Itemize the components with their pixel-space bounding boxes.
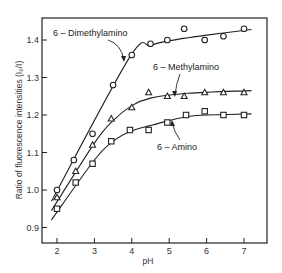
square-marker-icon bbox=[241, 112, 246, 117]
fluorescence-ratio-chart: 234567 0.91.01.11.21.31.4 pH Ratio of fl… bbox=[0, 0, 282, 273]
square-marker-icon bbox=[109, 139, 114, 144]
circle-marker-icon bbox=[181, 26, 187, 32]
y-tick-label: 1.4 bbox=[26, 35, 39, 45]
y-tick-label: 1.2 bbox=[26, 110, 39, 120]
triangle-marker-icon bbox=[108, 116, 114, 121]
arrowhead-amino-icon bbox=[170, 120, 175, 126]
circle-marker-icon bbox=[165, 37, 171, 43]
circle-marker-icon bbox=[241, 26, 247, 32]
triangle-marker-icon bbox=[202, 89, 208, 94]
x-tick-label: 5 bbox=[167, 246, 172, 256]
square-marker-icon bbox=[73, 180, 78, 185]
label-methylamino: 6 – Methylamino bbox=[153, 62, 219, 72]
series-6-amino bbox=[51, 109, 251, 220]
triangle-marker-icon bbox=[146, 89, 152, 94]
square-marker-icon bbox=[90, 161, 95, 166]
circle-marker-icon bbox=[221, 33, 227, 39]
y-axis: 0.91.01.11.21.31.4 bbox=[26, 35, 47, 233]
square-marker-icon bbox=[165, 120, 170, 125]
y-axis-label: Ratio of fluorescence intensities (I₀/I) bbox=[14, 61, 24, 200]
x-tick-label: 2 bbox=[54, 246, 59, 256]
circle-marker-icon bbox=[90, 131, 96, 137]
x-tick-label: 4 bbox=[129, 246, 134, 256]
series-layer bbox=[51, 26, 251, 220]
triangle-marker-icon bbox=[129, 104, 135, 109]
x-axis-label: pH bbox=[143, 256, 154, 266]
label-dimethylamino: 6 – Dimethylamino bbox=[53, 28, 128, 38]
x-tick-label: 7 bbox=[241, 246, 246, 256]
circle-marker-icon bbox=[110, 82, 116, 88]
circle-marker-icon bbox=[71, 157, 77, 163]
square-marker-icon bbox=[54, 206, 59, 211]
arrowhead-dimethylamino-icon bbox=[121, 56, 126, 62]
y-tick-label: 1.3 bbox=[26, 73, 39, 83]
circle-marker-icon bbox=[129, 52, 135, 58]
triangle-marker-icon bbox=[220, 89, 226, 94]
fit-curve bbox=[51, 91, 251, 211]
circle-marker-icon bbox=[202, 37, 208, 43]
square-marker-icon bbox=[202, 109, 207, 114]
square-marker-icon bbox=[221, 112, 226, 117]
label-amino: 6 – Amino bbox=[157, 142, 197, 152]
y-tick-label: 1.0 bbox=[26, 185, 39, 195]
y-tick-label: 1.1 bbox=[26, 148, 39, 158]
square-marker-icon bbox=[183, 112, 188, 117]
series-6-methylamino bbox=[51, 89, 251, 210]
x-tick-label: 3 bbox=[92, 246, 97, 256]
x-axis: 234567 bbox=[54, 238, 246, 256]
triangle-marker-icon bbox=[241, 89, 247, 94]
x-tick-label: 6 bbox=[204, 246, 209, 256]
plot-frame bbox=[42, 18, 267, 243]
circle-marker-icon bbox=[54, 187, 60, 193]
square-marker-icon bbox=[127, 127, 132, 132]
triangle-marker-icon bbox=[164, 93, 170, 98]
square-marker-icon bbox=[146, 127, 151, 132]
circle-marker-icon bbox=[148, 41, 154, 47]
y-tick-label: 0.9 bbox=[26, 223, 39, 233]
